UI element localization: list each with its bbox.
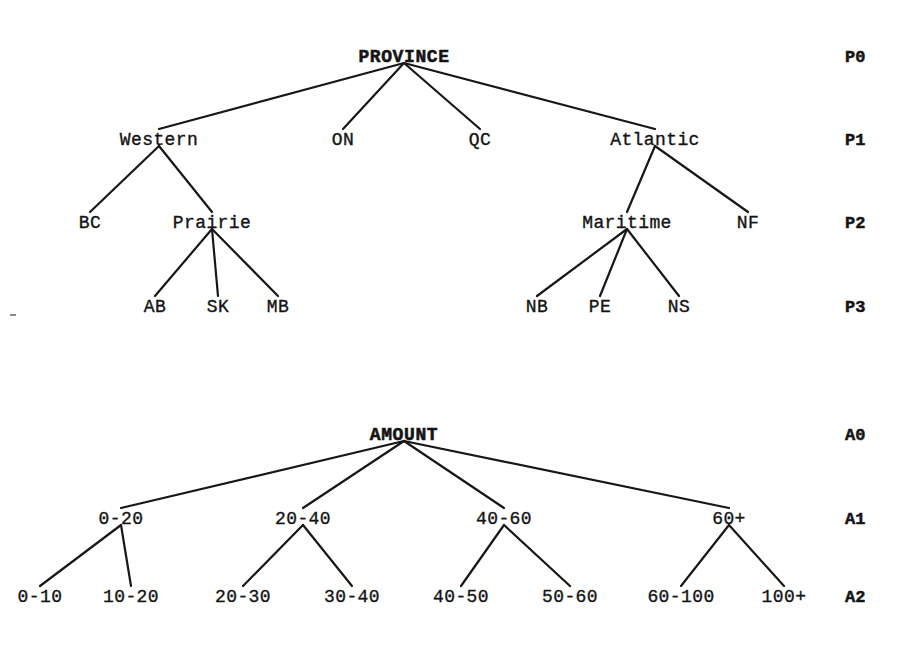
- tree-node-ab[interactable]: AB: [144, 297, 166, 317]
- tree-edge-AMOUNT-to-20-40: [303, 441, 404, 508]
- tree-node-0-20[interactable]: 0-20: [99, 509, 144, 529]
- tree-node-100-[interactable]: 100+: [762, 587, 807, 607]
- level-label-a2: A2: [845, 588, 865, 607]
- tree-node-province[interactable]: PROVINCE: [358, 47, 449, 67]
- tree-edge-40-60-to-50-60: [504, 525, 570, 586]
- tree-edge-0-20-to-0-10: [40, 525, 121, 586]
- tree-edge-Western-to-Prairie: [159, 146, 212, 212]
- level-labels-layer: P0P1P2P3A0A1A2: [845, 48, 865, 607]
- tree-edge-Prairie-to-SK: [212, 229, 218, 296]
- tree-node-40-50[interactable]: 40-50: [433, 587, 489, 607]
- tree-node-prairie[interactable]: Prairie: [173, 213, 251, 233]
- tree-edge-Maritime-to-NS: [627, 229, 679, 296]
- tree-node-10-20[interactable]: 10-20: [103, 587, 159, 607]
- level-label-p2: P2: [845, 214, 865, 233]
- tree-node-atlantic[interactable]: Atlantic: [610, 130, 700, 150]
- tree-node-60-[interactable]: 60+: [712, 509, 746, 529]
- tree-node-mb[interactable]: MB: [267, 297, 289, 317]
- tree-edge-Prairie-to-MB: [212, 229, 278, 296]
- tree-node-bc[interactable]: BC: [79, 213, 101, 233]
- tree-edge-PROVINCE-to-Western: [159, 63, 404, 129]
- level-label-a0: A0: [845, 426, 865, 445]
- tree-node-amount[interactable]: AMOUNT: [370, 425, 438, 445]
- tree-node-nb[interactable]: NB: [526, 297, 548, 317]
- nodes-layer: PROVINCEWesternONQCAtlanticBCPrairieMari…: [18, 47, 807, 607]
- tree-node-20-40[interactable]: 20-40: [275, 509, 331, 529]
- scan-speck: [10, 314, 16, 316]
- tree-edge-0-20-to-10-20: [121, 525, 131, 586]
- level-label-p0: P0: [845, 48, 865, 67]
- tree-node-50-60[interactable]: 50-60: [542, 587, 598, 607]
- tree-edge-40-60-to-40-50: [461, 525, 504, 586]
- tree-node-60-100[interactable]: 60-100: [647, 587, 714, 607]
- tree-node-on[interactable]: ON: [332, 130, 354, 150]
- tree-node-maritime[interactable]: Maritime: [582, 213, 672, 233]
- tree-node-nf[interactable]: NF: [737, 213, 759, 233]
- tree-node-30-40[interactable]: 30-40: [324, 587, 380, 607]
- tree-edge-AMOUNT-to-0-20: [121, 441, 404, 508]
- scan-artifacts-layer: [10, 314, 16, 316]
- tree-edge-Prairie-to-AB: [155, 229, 212, 296]
- tree-edge-Atlantic-to-NF: [655, 146, 748, 212]
- tree-node-0-10[interactable]: 0-10: [18, 587, 63, 607]
- tree-edge-20-40-to-20-30: [243, 525, 303, 586]
- tree-edge-60+-to-60-100: [681, 525, 729, 586]
- tree-node-sk[interactable]: SK: [207, 297, 229, 317]
- tree-edge-Western-to-BC: [90, 146, 159, 212]
- tree-node-pe[interactable]: PE: [589, 297, 611, 317]
- tree-node-20-30[interactable]: 20-30: [215, 587, 271, 607]
- tree-edge-Atlantic-to-Maritime: [627, 146, 655, 212]
- tree-edge-20-40-to-30-40: [303, 525, 352, 586]
- tree-diagram-canvas: PROVINCEWesternONQCAtlanticBCPrairieMari…: [0, 0, 920, 660]
- tree-node-ns[interactable]: NS: [668, 297, 690, 317]
- tree-node-western[interactable]: Western: [120, 130, 198, 150]
- tree-node-40-60[interactable]: 40-60: [476, 509, 532, 529]
- tree-edge-60+-to-100+: [729, 525, 784, 586]
- level-label-p3: P3: [845, 298, 865, 317]
- tree-edge-PROVINCE-to-ON: [343, 63, 404, 129]
- tree-node-qc[interactable]: QC: [469, 130, 491, 150]
- figure-root: PROVINCEWesternONQCAtlanticBCPrairieMari…: [0, 0, 920, 660]
- level-label-p1: P1: [845, 131, 865, 150]
- level-label-a1: A1: [845, 510, 865, 529]
